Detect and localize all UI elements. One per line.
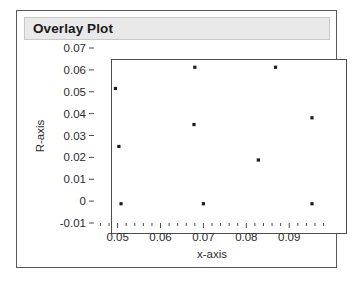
page-title: Overlay Plot xyxy=(33,21,113,36)
screenshot-root: Overlay Plot 0.070.060.050.040.030.020.0… xyxy=(0,0,354,288)
overlay-plot-panel: Overlay Plot xyxy=(16,10,337,268)
plot-axes-frame xyxy=(111,59,347,234)
plot-title-bar: Overlay Plot xyxy=(24,17,330,40)
